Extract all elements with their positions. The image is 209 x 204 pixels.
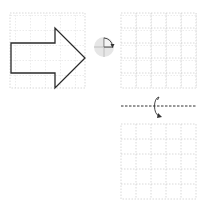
rotate-clockwise-icon xyxy=(94,37,115,57)
source-grid xyxy=(10,13,85,88)
flip-vertical-icon xyxy=(155,97,163,118)
diagram-canvas xyxy=(0,0,209,204)
rotation-target-grid xyxy=(121,13,197,88)
reflection-target-grid xyxy=(121,124,196,199)
